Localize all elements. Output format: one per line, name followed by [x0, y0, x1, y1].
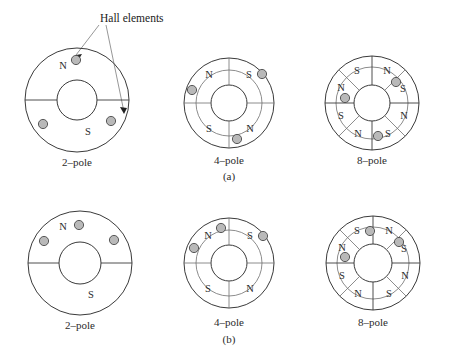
pole-label-n3: N [354, 128, 362, 139]
hall-element-dot[interactable] [71, 55, 80, 64]
pole-label-south: S [88, 289, 94, 300]
diagram-caption: 4–pole [214, 316, 244, 328]
diagram-a-2-pole: N S 2–pole [25, 48, 129, 168]
hub-circle [211, 245, 247, 281]
hall-element-dot[interactable] [39, 236, 48, 245]
hall-element-dot[interactable] [257, 69, 266, 78]
hub-circle [211, 85, 247, 121]
pole-label-north: N [204, 230, 212, 241]
hub-circle [354, 244, 392, 282]
pole-label-south-2: S [205, 283, 211, 294]
hall-element-dot[interactable] [189, 243, 198, 252]
pole-label-s1: S [354, 225, 360, 236]
pole-label-north-2: N [246, 123, 254, 134]
diagram-a-8-pole: S N S N S N S N 8–pole [325, 56, 419, 166]
diagram-b-8-pole: S N S N S N S N 8–pole [326, 216, 420, 328]
row-caption-a: (a) [223, 170, 236, 183]
pole-label-south-2: S [206, 123, 212, 134]
diagram-a-4-pole: N S N S 4–pole [184, 58, 274, 166]
pole-label-s1: S [354, 65, 360, 76]
hall-element-dot[interactable] [258, 231, 267, 240]
pole-label-s3: S [385, 128, 391, 139]
pole-label-n1: N [383, 65, 391, 76]
pole-label-s4: S [339, 270, 345, 281]
diagram-caption: 8–pole [357, 154, 387, 166]
pole-label-south: S [246, 69, 252, 80]
pole-label-north: N [205, 69, 213, 80]
hall-element-dot[interactable] [187, 85, 196, 94]
pole-label-n2: N [400, 110, 408, 121]
hall-element-dot[interactable] [106, 116, 115, 125]
diagram-caption: 4–pole [214, 154, 244, 166]
hall-element-pole-figure: Hall elements N S 2–pole N S N S [0, 0, 461, 352]
leader-arrowhead-right [120, 107, 127, 114]
pole-label-n4: N [337, 82, 345, 93]
hall-element-dot[interactable] [232, 134, 241, 143]
hall-element-dot[interactable] [365, 226, 374, 235]
pole-label-s4: S [338, 110, 344, 121]
row-caption-b: (b) [223, 333, 236, 346]
diagram-b-2-pole: N S 2–pole [28, 211, 132, 331]
pole-label-south: S [85, 126, 91, 137]
hall-element-dot[interactable] [394, 237, 403, 246]
hub-circle [59, 242, 101, 284]
hall-element-dot[interactable] [216, 223, 225, 232]
diagram-caption: 2–pole [65, 319, 95, 331]
hub-circle [57, 80, 97, 120]
annotation-label: Hall elements [100, 12, 164, 24]
pole-label-n2: N [401, 270, 409, 281]
diagram-caption: 2–pole [62, 156, 92, 168]
hall-element-dot[interactable] [391, 77, 400, 86]
hub-circle [354, 85, 390, 121]
hall-element-dot[interactable] [109, 235, 118, 244]
pole-label-n3: N [354, 288, 362, 299]
pole-label-south: S [247, 230, 253, 241]
diagram-b-4-pole: N S N S 4–pole [184, 218, 274, 328]
hall-element-dot[interactable] [340, 93, 349, 102]
hall-element-dot[interactable] [38, 119, 47, 128]
diagram-caption: 8–pole [358, 316, 388, 328]
leader-line-top [76, 25, 99, 55]
pole-label-s2: S [400, 83, 406, 94]
pole-label-north: N [59, 221, 67, 232]
pole-label-s3: S [386, 288, 392, 299]
hall-element-dot[interactable] [373, 131, 382, 140]
pole-label-n1: N [385, 225, 393, 236]
pole-label-n4: N [338, 242, 346, 253]
hall-element-dot[interactable] [74, 220, 83, 229]
leader-line-right [106, 25, 124, 112]
pole-label-north: N [59, 60, 67, 71]
hall-element-dot[interactable] [340, 252, 349, 261]
pole-label-north-2: N [246, 283, 254, 294]
